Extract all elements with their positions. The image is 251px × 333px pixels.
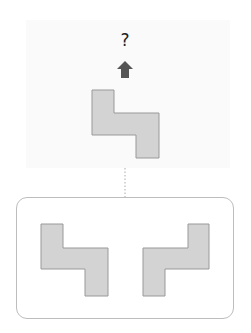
- target-shape: [92, 90, 159, 158]
- answer-options-box: [16, 197, 234, 319]
- up-arrow-icon: [117, 61, 133, 78]
